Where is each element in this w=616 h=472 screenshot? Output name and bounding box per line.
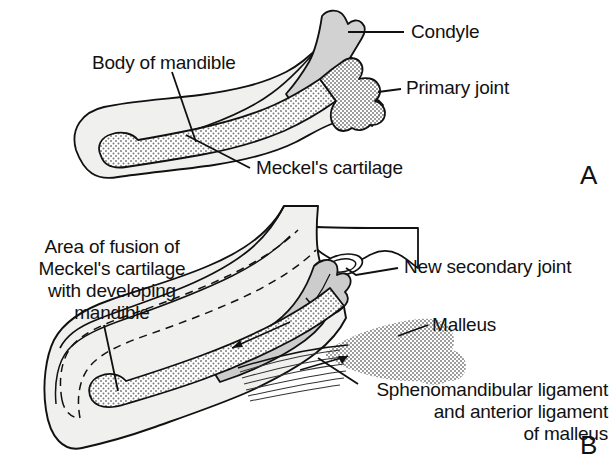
- label-sphenomandibular-ligament: Sphenomandibular ligament and anterior l…: [352, 379, 608, 445]
- leader-primary-joint: [378, 89, 401, 92]
- panel-letter-a: A: [580, 160, 597, 191]
- label-area-of-fusion: Area of fusion of Meckel's cartilage wit…: [14, 236, 210, 324]
- label-new-secondary-joint: New secondary joint: [404, 256, 571, 278]
- panel-letter-b: B: [580, 430, 597, 461]
- label-primary-joint: Primary joint: [406, 77, 509, 99]
- label-meckels-cartilage: Meckel's cartilage: [256, 157, 403, 179]
- label-body-of-mandible: Body of mandible: [92, 52, 236, 74]
- panel-a-anatomy: [74, 11, 404, 178]
- label-malleus: Malleus: [432, 314, 496, 336]
- label-condyle: Condyle: [411, 21, 479, 43]
- anatomy-figure: Condyle Primary joint Body of mandible M…: [0, 0, 616, 472]
